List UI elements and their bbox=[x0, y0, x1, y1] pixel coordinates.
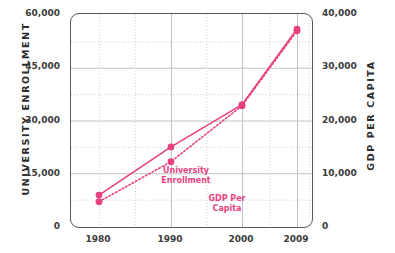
chart-container: UNIVERSITY ENROLLMENT GDP PER CAPITA 60,… bbox=[0, 0, 395, 253]
y-axis-right-tick-0: 0 bbox=[322, 221, 374, 231]
y-axis-right-tick-20000: 20,000 bbox=[322, 115, 374, 125]
y-axis-left-tick-45000: 45,000 bbox=[8, 61, 60, 71]
series-annotation-university-enrollment: University Enrollment bbox=[157, 166, 215, 186]
x-axis-tick-2000: 2000 bbox=[218, 234, 264, 244]
x-axis-tick-1990: 1990 bbox=[147, 234, 193, 244]
y-axis-left-tick-15000: 15,000 bbox=[8, 168, 60, 178]
y-axis-left-tick-0: 0 bbox=[8, 221, 60, 231]
y-axis-left-tick-30000: 30,000 bbox=[8, 115, 60, 125]
y-axis-right-tick-40000: 40,000 bbox=[322, 8, 374, 18]
y-axis-left-tick-60000: 60,000 bbox=[8, 8, 60, 18]
x-axis-tick-2009: 2009 bbox=[273, 234, 319, 244]
chart-svg bbox=[71, 14, 312, 227]
plot-area: University Enrollment GDP Per Capita bbox=[70, 13, 313, 228]
y-axis-right-tick-30000: 30,000 bbox=[322, 61, 374, 71]
x-axis-tick-1980: 1980 bbox=[75, 234, 121, 244]
y-axis-right-tick-10000: 10,000 bbox=[322, 168, 374, 178]
series-annotation-gdp-per-capita: GDP Per Capita bbox=[199, 194, 255, 214]
